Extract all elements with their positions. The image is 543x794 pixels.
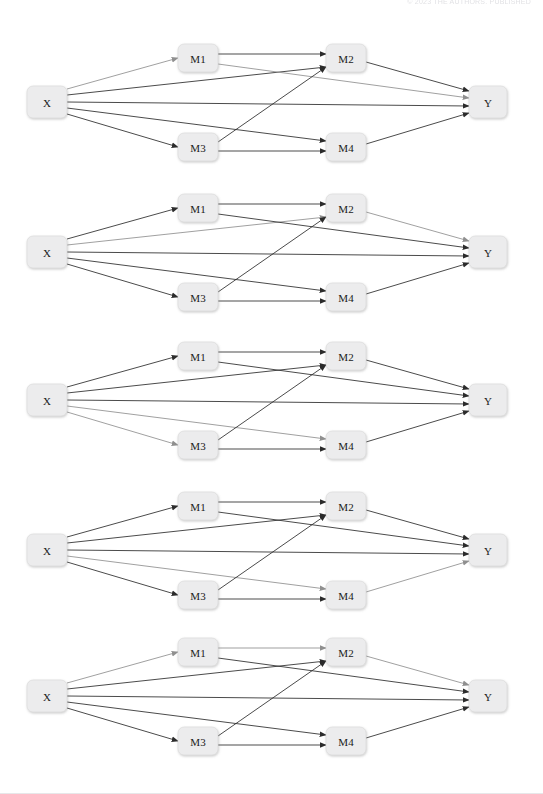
node-m1[interactable]: M1 bbox=[178, 44, 218, 72]
node-label-y: Y bbox=[484, 691, 492, 703]
edge-x-to-y bbox=[67, 252, 469, 256]
edge-x-to-m1 bbox=[67, 208, 178, 239]
node-x[interactable]: X bbox=[27, 236, 67, 268]
node-m2[interactable]: M2 bbox=[326, 44, 366, 72]
edge-x-to-m1 bbox=[67, 356, 178, 387]
diagram-canvas: XM1M2M3M4Y bbox=[0, 180, 543, 332]
node-label-y: Y bbox=[484, 395, 492, 407]
node-m1[interactable]: M1 bbox=[178, 638, 218, 666]
path-diagram-1: XM1M2M3M4Y bbox=[0, 30, 543, 182]
node-label-m1: M1 bbox=[190, 203, 205, 215]
node-label-m1: M1 bbox=[190, 647, 205, 659]
path-diagram-4: XM1M2M3M4Y bbox=[0, 478, 543, 630]
node-label-m3: M3 bbox=[190, 142, 206, 154]
page-header-text: © 2023 THE AUTHORS. PUBLISHED bbox=[407, 0, 531, 5]
edge-m4-to-y bbox=[366, 113, 469, 144]
edge-m4-to-y bbox=[366, 263, 469, 294]
node-x[interactable]: X bbox=[27, 86, 67, 118]
node-x[interactable]: X bbox=[27, 384, 67, 416]
edge-m2-to-y bbox=[366, 656, 469, 685]
node-m3[interactable]: M3 bbox=[178, 581, 218, 609]
edge-x-to-m3 bbox=[67, 708, 178, 741]
node-m4[interactable]: M4 bbox=[326, 581, 366, 609]
node-y[interactable]: Y bbox=[469, 236, 507, 268]
node-label-m2: M2 bbox=[338, 647, 353, 659]
node-x[interactable]: X bbox=[27, 534, 67, 566]
edge-m4-to-y bbox=[366, 561, 469, 592]
node-y[interactable]: Y bbox=[469, 534, 507, 566]
node-label-x: X bbox=[43, 545, 51, 557]
node-label-m2: M2 bbox=[338, 501, 353, 513]
node-m3[interactable]: M3 bbox=[178, 283, 218, 311]
node-x[interactable]: X bbox=[27, 680, 67, 712]
diagram-canvas: XM1M2M3M4Y bbox=[0, 478, 543, 630]
edge-x-to-m3 bbox=[67, 562, 178, 595]
node-label-m2: M2 bbox=[338, 351, 353, 363]
node-label-m4: M4 bbox=[338, 736, 354, 748]
node-label-y: Y bbox=[484, 97, 492, 109]
edge-layer bbox=[67, 54, 469, 151]
node-y[interactable]: Y bbox=[469, 86, 507, 118]
node-label-x: X bbox=[43, 395, 51, 407]
edge-x-to-y bbox=[67, 550, 469, 554]
edge-layer bbox=[67, 204, 469, 301]
edge-x-to-y bbox=[67, 102, 469, 106]
node-label-x: X bbox=[43, 97, 51, 109]
node-label-m3: M3 bbox=[190, 590, 206, 602]
edge-x-to-m3 bbox=[67, 114, 178, 147]
edge-x-to-m3 bbox=[67, 264, 178, 297]
node-label-m4: M4 bbox=[338, 440, 354, 452]
node-m1[interactable]: M1 bbox=[178, 194, 218, 222]
node-m4[interactable]: M4 bbox=[326, 727, 366, 755]
node-label-y: Y bbox=[484, 545, 492, 557]
path-diagram-3: XM1M2M3M4Y bbox=[0, 328, 543, 480]
diagram-canvas: XM1M2M3M4Y bbox=[0, 30, 543, 182]
edge-x-to-y bbox=[67, 400, 469, 404]
node-m1[interactable]: M1 bbox=[178, 342, 218, 370]
node-label-m1: M1 bbox=[190, 501, 205, 513]
path-diagram-5: XM1M2M3M4Y bbox=[0, 624, 543, 776]
node-label-x: X bbox=[43, 691, 51, 703]
node-m2[interactable]: M2 bbox=[326, 492, 366, 520]
edge-x-to-m3 bbox=[67, 412, 178, 445]
edge-x-to-m1 bbox=[67, 58, 178, 89]
edge-m2-to-y bbox=[366, 62, 469, 91]
path-diagram-2: XM1M2M3M4Y bbox=[0, 180, 543, 332]
node-label-m1: M1 bbox=[190, 351, 205, 363]
diagram-canvas: XM1M2M3M4Y bbox=[0, 624, 543, 776]
node-label-m4: M4 bbox=[338, 590, 354, 602]
node-y[interactable]: Y bbox=[469, 680, 507, 712]
node-m3[interactable]: M3 bbox=[178, 133, 218, 161]
diagram-canvas: XM1M2M3M4Y bbox=[0, 328, 543, 480]
edge-layer bbox=[67, 502, 469, 599]
node-label-m3: M3 bbox=[190, 440, 206, 452]
node-m2[interactable]: M2 bbox=[326, 638, 366, 666]
edge-layer bbox=[67, 352, 469, 449]
edge-m2-to-y bbox=[366, 212, 469, 241]
node-m2[interactable]: M2 bbox=[326, 194, 366, 222]
edge-m4-to-y bbox=[366, 707, 469, 738]
node-m4[interactable]: M4 bbox=[326, 431, 366, 459]
page-canvas: © 2023 THE AUTHORS. PUBLISHED XM1M2M3M4Y… bbox=[0, 0, 543, 794]
node-m3[interactable]: M3 bbox=[178, 431, 218, 459]
node-label-m4: M4 bbox=[338, 292, 354, 304]
edge-layer bbox=[67, 648, 469, 745]
node-label-m2: M2 bbox=[338, 203, 353, 215]
node-y[interactable]: Y bbox=[469, 384, 507, 416]
node-m3[interactable]: M3 bbox=[178, 727, 218, 755]
edge-m2-to-y bbox=[366, 510, 469, 539]
node-label-m2: M2 bbox=[338, 53, 353, 65]
node-m4[interactable]: M4 bbox=[326, 133, 366, 161]
edge-m2-to-y bbox=[366, 360, 469, 389]
edge-x-to-m1 bbox=[67, 506, 178, 537]
node-label-m3: M3 bbox=[190, 736, 206, 748]
node-label-m3: M3 bbox=[190, 292, 206, 304]
node-m2[interactable]: M2 bbox=[326, 342, 366, 370]
node-label-x: X bbox=[43, 247, 51, 259]
node-m1[interactable]: M1 bbox=[178, 492, 218, 520]
node-m4[interactable]: M4 bbox=[326, 283, 366, 311]
edge-x-to-m1 bbox=[67, 652, 178, 683]
node-label-m1: M1 bbox=[190, 53, 205, 65]
node-label-m4: M4 bbox=[338, 142, 354, 154]
node-label-y: Y bbox=[484, 247, 492, 259]
